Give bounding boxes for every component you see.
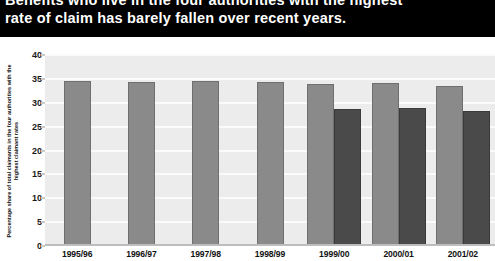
chart-title: Benefits who live in the four authoritie… — [5, 0, 495, 27]
chart-title-line-1: Benefits who live in the four authoritie… — [5, 0, 495, 9]
bar-pensioners[interactable] — [463, 111, 490, 246]
y-axis-tick-label: 30 — [16, 98, 42, 108]
x-axis-tick-label: 1998/99 — [238, 249, 302, 259]
y-axis-tick-mark — [41, 54, 45, 56]
bar-group — [64, 55, 91, 246]
chart-title-line-2: rate of claim has barely fallen over rec… — [5, 9, 495, 27]
y-axis-tick-mark — [41, 78, 45, 80]
y-axis-tick-label: 0 — [16, 241, 42, 251]
y-axis-tick-label: 40 — [16, 50, 42, 60]
bar-group — [128, 55, 155, 246]
bar-group — [192, 55, 219, 246]
y-axis-tick-mark — [41, 221, 45, 223]
y-axis-tick-label: 10 — [16, 193, 42, 203]
y-axis-tick-label: 25 — [16, 122, 42, 132]
chart-body: Working age Pensioners Percentage share … — [0, 37, 495, 261]
y-axis-tick-label: 5 — [16, 217, 42, 227]
plot-area: 0510152025303540 — [45, 55, 495, 246]
y-axis-tick-mark — [41, 126, 45, 128]
bar-group — [436, 55, 490, 246]
bar-group — [307, 55, 361, 246]
x-axis-tick-label: 1997/98 — [174, 249, 238, 259]
y-axis-tick-mark — [41, 173, 45, 175]
bar-working-age[interactable] — [436, 86, 463, 246]
bar-working-age[interactable] — [257, 82, 284, 246]
y-axis-tick-mark — [41, 102, 45, 104]
bar-working-age[interactable] — [64, 81, 91, 246]
x-axis-tick-label: 1995/96 — [45, 249, 109, 259]
y-axis-tick-label: 20 — [16, 146, 42, 156]
y-axis-tick-mark — [41, 197, 45, 199]
bar-working-age[interactable] — [307, 84, 334, 246]
y-axis-tick-label: 15 — [16, 169, 42, 179]
chart-header-band: Benefits who live in the four authoritie… — [0, 0, 495, 37]
bar-working-age[interactable] — [372, 83, 399, 246]
bar-group — [257, 55, 284, 246]
y-axis-title: Percentage share of total claimants in t… — [6, 0, 26, 55]
x-axis-tick-label: 2001/02 — [431, 249, 495, 259]
bar-pensioners[interactable] — [399, 108, 426, 246]
y-axis-tick-mark — [41, 150, 45, 152]
bar-working-age[interactable] — [192, 81, 219, 246]
x-axis-tick-label: 1999/00 — [302, 249, 366, 259]
x-axis-tick-label: 1996/97 — [109, 249, 173, 259]
axis-baseline — [45, 244, 495, 246]
bar-group — [372, 55, 426, 246]
chart-page: Benefits who live in the four authoritie… — [0, 0, 495, 261]
bar-working-age[interactable] — [128, 82, 155, 246]
bar-pensioners[interactable] — [334, 109, 361, 246]
y-axis-tick-label: 35 — [16, 74, 42, 84]
x-axis-tick-label: 2000/01 — [366, 249, 430, 259]
